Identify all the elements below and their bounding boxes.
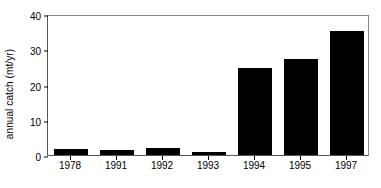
bar-slot <box>94 16 140 155</box>
bar-slot <box>324 16 370 155</box>
bar-slot <box>278 16 324 155</box>
x-tick-label-1994: 1994 <box>243 160 265 171</box>
x-tick-label-1992: 1992 <box>151 160 173 171</box>
bar-slot <box>48 16 94 155</box>
x-tick-mark <box>70 156 71 160</box>
y-axis-title: annual catch (mt/yr) <box>0 0 18 188</box>
x-tick-label-1997: 1997 <box>335 160 357 171</box>
bar-1992 <box>146 148 180 155</box>
bar-slot <box>232 16 278 155</box>
bar-1993 <box>192 152 226 155</box>
x-axis-ticks: 1978199119921993199419951997 <box>47 160 369 176</box>
bar-slot <box>186 16 232 155</box>
y-tick-label: 20 <box>30 81 44 92</box>
x-tick-label-1995: 1995 <box>289 160 311 171</box>
plot-area: 010203040 <box>47 15 369 156</box>
x-tick-mark <box>162 156 163 160</box>
x-tick-mark <box>254 156 255 160</box>
bar-1994 <box>238 68 272 155</box>
y-tick-20: 20 <box>30 81 48 92</box>
x-tick-mark <box>300 156 301 160</box>
x-tick-mark <box>346 156 347 160</box>
y-tick-10: 10 <box>30 116 48 127</box>
y-tick-label: 0 <box>35 152 44 163</box>
y-tick-mark <box>44 157 48 158</box>
x-tick-label-1993: 1993 <box>197 160 219 171</box>
y-tick-40: 40 <box>30 11 48 22</box>
bar-1997 <box>330 31 364 155</box>
bar-chart-figure: annual catch (mt/yr) 010203040 197819911… <box>0 0 381 188</box>
bar-slot <box>140 16 186 155</box>
x-tick-label-1978: 1978 <box>59 160 81 171</box>
y-tick-label: 40 <box>30 11 44 22</box>
x-tick-label-1991: 1991 <box>105 160 127 171</box>
bar-1991 <box>100 150 134 155</box>
y-tick-label: 10 <box>30 116 44 127</box>
bars-layer <box>48 16 368 155</box>
x-tick-mark <box>116 156 117 160</box>
x-tick-mark <box>208 156 209 160</box>
bar-1978 <box>54 149 88 155</box>
y-tick-30: 30 <box>30 46 48 57</box>
bar-1995 <box>284 59 318 155</box>
y-tick-label: 30 <box>30 46 44 57</box>
